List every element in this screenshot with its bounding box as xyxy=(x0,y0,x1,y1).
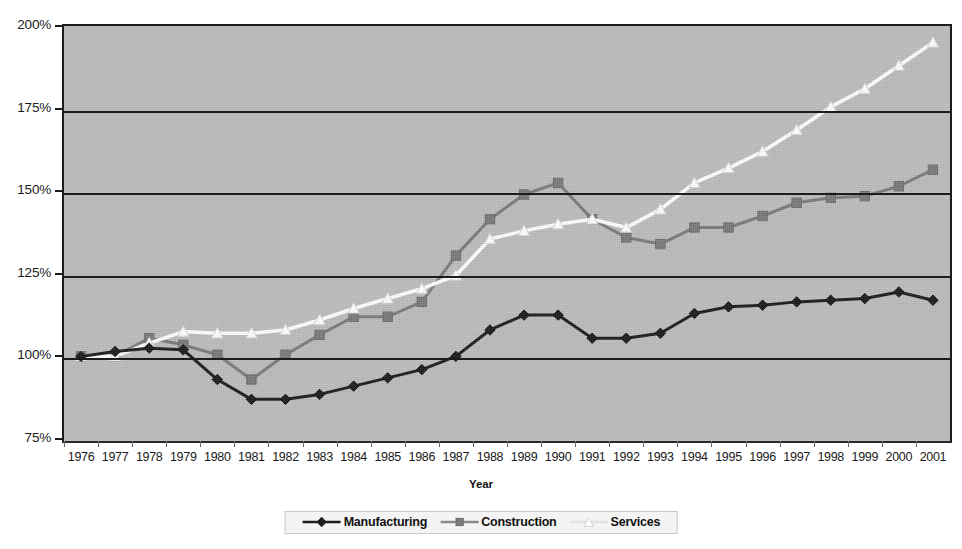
series-construction xyxy=(76,165,937,384)
x-axis-tick-label: 1988 xyxy=(477,450,504,464)
y-axis-tick-label: 125% xyxy=(17,265,51,280)
x-axis-tick-label: 1984 xyxy=(340,450,367,464)
data-point-marker xyxy=(724,223,733,232)
data-point-marker xyxy=(690,223,699,232)
x-axis-tick-mark xyxy=(64,441,65,447)
data-point-marker xyxy=(757,300,767,310)
x-axis-tick-label: 1994 xyxy=(681,450,708,464)
x-axis-tick-mark xyxy=(643,441,644,447)
x-axis-tick-label: 1979 xyxy=(170,450,197,464)
legend-label-manufacturing: Manufacturing xyxy=(344,515,428,529)
data-point-marker xyxy=(894,182,903,191)
x-axis-tick-label: 1977 xyxy=(102,450,129,464)
data-point-marker xyxy=(280,394,290,404)
x-axis-tick-mark xyxy=(200,441,201,447)
data-point-marker xyxy=(928,165,937,174)
x-axis-tick-mark xyxy=(609,441,610,447)
gridline xyxy=(64,276,950,278)
x-axis-tick-mark xyxy=(677,441,678,447)
data-point-marker xyxy=(417,297,426,306)
series-line xyxy=(81,292,933,399)
x-axis-tick-label: 1997 xyxy=(783,450,810,464)
legend-item-construction[interactable]: Construction xyxy=(433,515,562,529)
data-point-marker xyxy=(723,302,733,312)
x-axis-tick-mark xyxy=(303,441,304,447)
data-point-marker xyxy=(928,295,938,305)
x-axis-tick-mark xyxy=(575,441,576,447)
x-axis-tick-label: 1993 xyxy=(647,450,674,464)
x-axis-tick-label: 1990 xyxy=(545,450,572,464)
x-axis-tick-label: 1978 xyxy=(136,450,163,464)
x-axis-tick-mark xyxy=(780,441,781,447)
data-point-marker xyxy=(417,364,427,374)
y-axis-tick-mark xyxy=(55,438,62,440)
series-line xyxy=(81,170,933,380)
x-axis-tick-label: 1983 xyxy=(306,450,333,464)
data-point-marker xyxy=(826,295,836,305)
data-point-marker xyxy=(451,251,460,260)
x-axis-tick-label: 2000 xyxy=(886,450,913,464)
x-axis-tick-mark xyxy=(541,441,542,447)
chart-legend: Manufacturing Construction Services xyxy=(285,511,678,534)
data-point-marker xyxy=(348,381,358,391)
data-point-marker xyxy=(383,312,392,321)
x-axis-tick-label: 1998 xyxy=(817,450,844,464)
data-point-marker xyxy=(383,373,393,383)
series-services xyxy=(76,37,939,361)
x-axis-tick-mark xyxy=(711,441,712,447)
legend-marker-services xyxy=(569,515,609,529)
data-point-marker xyxy=(553,178,562,187)
x-axis-tick-label: 1986 xyxy=(408,450,435,464)
legend-label-construction: Construction xyxy=(481,515,556,529)
x-axis-tick-label: 1991 xyxy=(579,450,606,464)
x-axis-tick-mark xyxy=(166,441,167,447)
x-axis-tick-label: 1987 xyxy=(443,450,470,464)
x-axis-tick-label: 1996 xyxy=(749,450,776,464)
data-point-marker xyxy=(314,389,324,399)
gridline xyxy=(64,111,950,113)
y-axis-tick-label: 75% xyxy=(25,430,51,445)
x-axis-tick-label: 1989 xyxy=(511,450,538,464)
chart-figure: 200%175%150%125%100%75% 1976197719781979… xyxy=(0,0,962,549)
x-axis-tick-label: 1982 xyxy=(272,450,299,464)
y-axis-tick-mark xyxy=(55,108,62,110)
x-axis-tick-mark xyxy=(507,441,508,447)
series-line xyxy=(81,43,933,357)
y-axis-tick-mark xyxy=(55,190,62,192)
x-axis-tick-mark xyxy=(337,441,338,447)
data-point-marker xyxy=(791,297,801,307)
x-axis-tick-label: 1995 xyxy=(715,450,742,464)
legend-item-services[interactable]: Services xyxy=(563,515,667,529)
data-point-marker xyxy=(247,375,256,384)
x-axis-title: Year xyxy=(0,478,962,490)
legend-marker-manufacturing xyxy=(302,515,342,529)
x-axis-tick-mark xyxy=(882,441,883,447)
data-point-marker xyxy=(315,330,324,339)
x-axis-tick-label: 1992 xyxy=(613,450,640,464)
series-layer xyxy=(64,26,950,439)
legend-item-manufacturing[interactable]: Manufacturing xyxy=(296,515,434,529)
legend-marker-construction xyxy=(439,515,479,529)
x-axis-tick-mark xyxy=(132,441,133,447)
data-point-marker xyxy=(622,233,631,242)
data-point-marker xyxy=(485,215,494,224)
y-axis-tick-label: 100% xyxy=(17,347,51,362)
x-axis-tick-mark xyxy=(916,441,917,447)
x-axis-tick-label: 1985 xyxy=(374,450,401,464)
x-axis-tick-mark xyxy=(439,441,440,447)
data-point-marker xyxy=(894,287,904,297)
x-axis-tick-mark xyxy=(234,441,235,447)
data-point-marker xyxy=(621,333,631,343)
data-point-marker xyxy=(656,239,665,248)
x-axis-tick-mark xyxy=(268,441,269,447)
x-axis-tick-mark xyxy=(746,441,747,447)
x-axis-tick-mark xyxy=(405,441,406,447)
y-axis-tick-label: 150% xyxy=(17,182,51,197)
y-axis-tick-mark xyxy=(55,355,62,357)
data-point-marker xyxy=(860,293,870,303)
data-point-marker xyxy=(792,198,801,207)
x-axis-tick-mark xyxy=(473,441,474,447)
legend-label-services: Services xyxy=(611,515,661,529)
x-axis-tick-label: 1999 xyxy=(851,450,878,464)
y-axis-tick-mark xyxy=(55,273,62,275)
